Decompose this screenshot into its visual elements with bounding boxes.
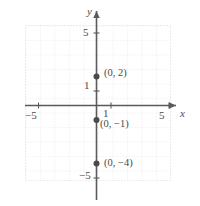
data-point (94, 161, 100, 167)
x-axis-arrowhead (169, 102, 176, 108)
y-axis-tick-label-1: 1 (84, 80, 90, 91)
data-point (94, 117, 100, 123)
y-axis-arrowhead (93, 11, 99, 18)
point-label-0-neg1: (0, −1) (100, 119, 129, 130)
grid (26, 26, 171, 181)
point-label-0-2: (0, 2) (104, 68, 127, 79)
y-axis-tick-label-neg5: −5 (79, 170, 91, 181)
point-label-0-neg4: (0, −4) (104, 158, 133, 169)
x-axis-tick-label-5: 5 (159, 110, 165, 121)
data-point (94, 74, 100, 80)
y-axis-tick-label-5: 5 (83, 27, 89, 38)
x-axis-name-label: x (180, 108, 185, 119)
x-axis-tick-label-neg5: −5 (25, 110, 37, 121)
y-axis-name-label: y (87, 6, 92, 17)
coordinate-plane-figure: y x 5 1 −5 −5 1 5 (0, 2) (0, −1) (0, −4) (0, 0, 200, 206)
coordinate-plane-canvas (0, 0, 200, 206)
